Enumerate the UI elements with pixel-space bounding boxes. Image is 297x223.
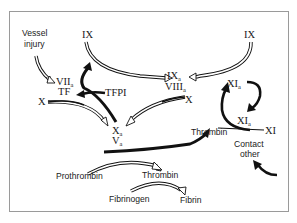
arrow-vessel-to-viia xyxy=(36,56,55,83)
label-fibrin: Fibrin xyxy=(180,195,202,205)
arrow-contact-to-xi xyxy=(258,165,277,175)
arrow-ix-right-to-ixa xyxy=(189,42,251,81)
label-other: other xyxy=(240,149,260,159)
label-vessel: Vessel xyxy=(22,28,47,38)
label-xia-top: XIa xyxy=(227,78,241,90)
label-x-right: X xyxy=(185,94,193,105)
label-tf: TF xyxy=(58,86,70,97)
coagulation-cascade-diagram: Vessel injury IX IX VIIa TF TFPI X X IXa… xyxy=(0,0,297,223)
arrow-ix-left-to-ixa xyxy=(86,42,172,82)
label-contact: Contact xyxy=(234,139,264,149)
label-viiia: VIIIa xyxy=(165,81,186,93)
label-ix-left: IX xyxy=(82,29,93,40)
labels: Vessel injury IX IX VIIa TF TFPI X X IXa… xyxy=(22,28,277,205)
arrow-x-left-to-xa xyxy=(48,102,108,126)
label-xi: XI xyxy=(265,125,277,136)
label-ix-right: IX xyxy=(244,29,255,40)
label-tfpi: TFPI xyxy=(105,87,127,98)
label-thrombin-bottom: Thrombin xyxy=(142,170,179,180)
arrow-x-right-to-xa xyxy=(126,97,185,126)
label-x-left: X xyxy=(38,96,46,107)
label-fibrinogen: Fibrinogen xyxy=(109,194,150,204)
label-thrombin-right: Thrombin xyxy=(191,127,228,137)
label-xia-mid: XIa xyxy=(237,115,251,127)
label-injury: injury xyxy=(24,39,45,49)
label-prothrombin: Prothrombin xyxy=(56,171,103,181)
